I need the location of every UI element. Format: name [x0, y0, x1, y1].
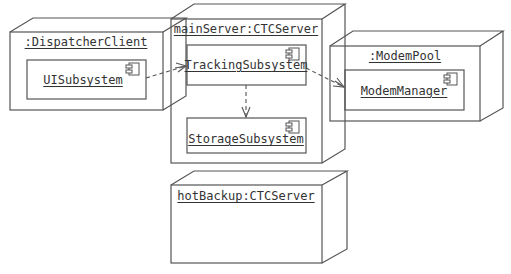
component-icon — [126, 63, 139, 75]
node-modem-pool — [330, 31, 503, 121]
node-hot-backup — [171, 171, 347, 263]
node-label-hot-backup: hotBackup:CTCServer — [177, 189, 314, 203]
component-label-ui-subsystem: UISubsystem — [43, 73, 122, 87]
node-label-dispatcher-client: :DispatcherClient — [25, 35, 148, 49]
node-label-modem-pool: :ModemPool — [369, 49, 441, 63]
dependency-ui-to-tracking — [146, 63, 186, 78]
dependency-tracking-to-modem-manager — [306, 68, 344, 87]
component-label-tracking-subsystem: TrackingSubsystem — [185, 58, 308, 72]
component-label-modem-manager: ModemManager — [361, 84, 448, 98]
dependency-tracking-to-storage — [242, 85, 250, 117]
component-label-storage-subsystem: StorageSubsystem — [188, 132, 304, 146]
node-dispatcher-client — [10, 18, 186, 110]
node-label-main-server: mainServer:CTCServer — [174, 22, 319, 36]
